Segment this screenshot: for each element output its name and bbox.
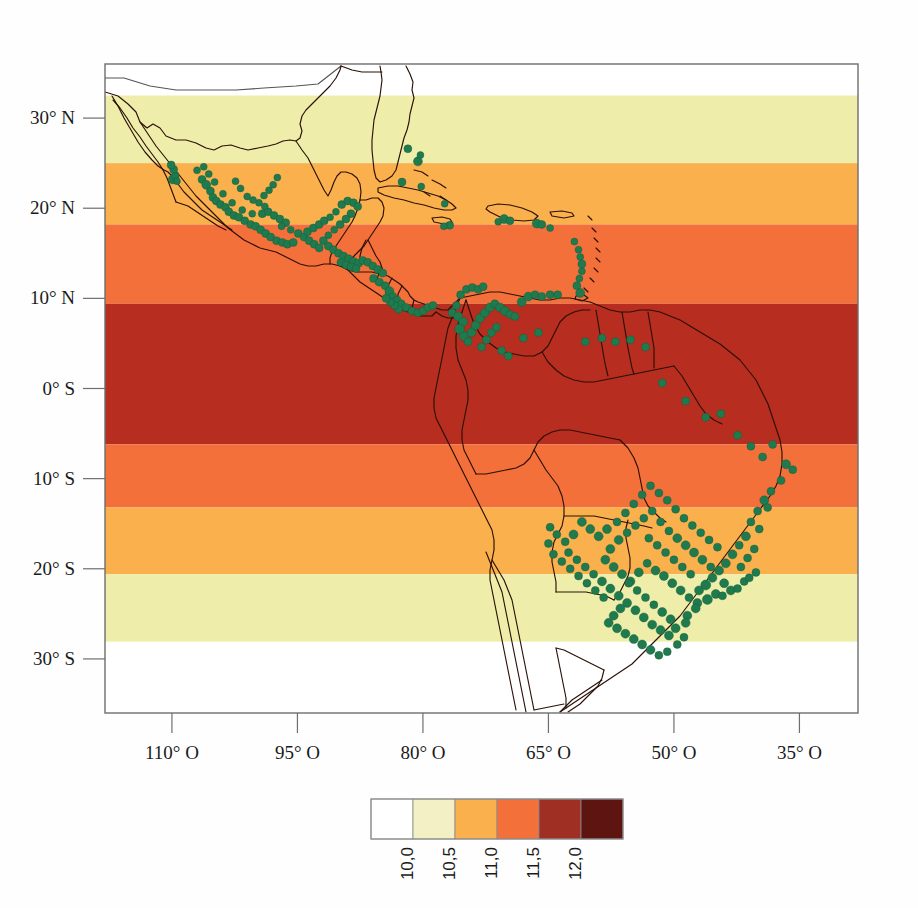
occurrence-point bbox=[698, 555, 707, 564]
occurrence-point bbox=[655, 651, 663, 659]
occurrence-point bbox=[651, 566, 660, 575]
x-tick-label: 50° O bbox=[651, 742, 696, 763]
occurrence-point bbox=[544, 540, 552, 548]
occurrence-point bbox=[576, 275, 583, 282]
occurrence-point bbox=[581, 338, 589, 346]
colorbar-tick-label: 11,0 bbox=[482, 847, 501, 879]
occurrence-point bbox=[598, 334, 606, 342]
colorbar-cell[interactable] bbox=[539, 799, 581, 839]
colorbar-tick-label: 11,5 bbox=[524, 847, 543, 879]
occurrence-point bbox=[640, 514, 648, 522]
occurrence-point bbox=[695, 586, 704, 595]
occurrence-point bbox=[777, 476, 785, 484]
climate-band bbox=[105, 64, 858, 96]
occurrence-point bbox=[479, 283, 487, 291]
occurrence-point bbox=[741, 532, 750, 541]
occurrence-point bbox=[583, 579, 591, 587]
occurrence-point bbox=[717, 410, 725, 418]
occurrence-point bbox=[728, 550, 737, 559]
occurrence-point bbox=[327, 214, 334, 221]
colorbar-cell[interactable] bbox=[455, 799, 497, 839]
occurrence-point bbox=[404, 145, 412, 153]
climate-band bbox=[105, 304, 858, 445]
occurrence-point bbox=[194, 167, 201, 174]
colorbar-cell[interactable] bbox=[581, 799, 623, 839]
occurrence-point bbox=[382, 294, 390, 302]
occurrence-point bbox=[633, 586, 641, 594]
occurrence-point bbox=[737, 563, 745, 571]
occurrence-point bbox=[576, 288, 585, 297]
occurrence-point bbox=[697, 529, 705, 537]
occurrence-point bbox=[613, 624, 622, 633]
climate-band bbox=[105, 163, 858, 224]
occurrence-point bbox=[676, 586, 685, 595]
occurrence-point bbox=[601, 555, 610, 564]
colorbar-tick-label: 12,0 bbox=[566, 847, 585, 880]
occurrence-point bbox=[549, 550, 557, 558]
occurrence-point bbox=[659, 571, 668, 580]
occurrence-point bbox=[577, 517, 586, 526]
occurrence-point bbox=[708, 573, 717, 582]
occurrence-point bbox=[352, 265, 360, 273]
occurrence-point bbox=[200, 163, 207, 170]
occurrence-point bbox=[744, 554, 752, 562]
occurrence-point bbox=[577, 253, 584, 260]
occurrence-point bbox=[452, 302, 460, 310]
occurrence-point bbox=[581, 563, 589, 571]
occurrence-point bbox=[645, 534, 653, 542]
occurrence-point bbox=[641, 594, 649, 602]
occurrence-point bbox=[232, 178, 239, 185]
occurrence-point bbox=[457, 291, 465, 299]
occurrence-point bbox=[754, 507, 762, 515]
occurrence-point bbox=[747, 442, 755, 450]
occurrence-point bbox=[249, 210, 256, 217]
climate-band bbox=[105, 96, 858, 164]
occurrence-point bbox=[205, 170, 212, 177]
occurrence-point bbox=[604, 618, 613, 627]
occurrence-point bbox=[566, 565, 574, 573]
occurrence-point bbox=[713, 543, 721, 551]
occurrence-point bbox=[750, 545, 758, 553]
occurrence-point bbox=[417, 152, 424, 159]
occurrence-point bbox=[734, 431, 742, 439]
occurrence-point bbox=[565, 549, 573, 557]
occurrence-point bbox=[648, 620, 657, 629]
occurrence-point bbox=[673, 640, 681, 648]
occurrence-point bbox=[752, 568, 760, 576]
occurrence-point bbox=[691, 604, 700, 613]
occurrence-point bbox=[495, 218, 502, 225]
occurrence-point bbox=[687, 570, 695, 578]
occurrence-point bbox=[764, 503, 772, 511]
occurrence-point bbox=[664, 631, 673, 640]
occurrence-point bbox=[546, 523, 554, 531]
colorbar-cell[interactable] bbox=[497, 799, 539, 839]
occurrence-point bbox=[561, 538, 569, 546]
occurrence-point bbox=[681, 541, 690, 550]
colorbar-group[interactable] bbox=[371, 799, 623, 839]
occurrence-point bbox=[546, 291, 554, 299]
occurrence-point bbox=[658, 379, 666, 387]
occurrence-point bbox=[673, 534, 682, 543]
y-tick-label: 20° N bbox=[30, 197, 75, 218]
occurrence-point bbox=[789, 466, 797, 474]
occurrence-point bbox=[569, 530, 578, 539]
occurrence-point bbox=[720, 579, 729, 588]
occurrence-point bbox=[702, 594, 712, 604]
colorbar-cell[interactable] bbox=[371, 799, 413, 839]
occurrence-point bbox=[638, 640, 647, 649]
occurrence-point bbox=[621, 509, 629, 517]
occurrence-point bbox=[483, 336, 491, 344]
occurrence-point bbox=[211, 179, 218, 186]
occurrence-point bbox=[663, 496, 671, 504]
occurrence-point bbox=[705, 536, 713, 544]
map-figure: 30° N20° N10° N0° S10° S20° S30° S 110° … bbox=[0, 0, 918, 908]
occurrence-point bbox=[641, 343, 649, 351]
occurrence-point bbox=[618, 570, 627, 579]
climate-band bbox=[105, 444, 858, 507]
occurrence-point bbox=[478, 343, 486, 351]
y-tick-label: 30° S bbox=[33, 648, 75, 669]
occurrence-point bbox=[578, 260, 586, 268]
occurrence-point bbox=[685, 594, 693, 602]
occurrence-point bbox=[547, 225, 554, 232]
colorbar-cell[interactable] bbox=[413, 799, 455, 839]
